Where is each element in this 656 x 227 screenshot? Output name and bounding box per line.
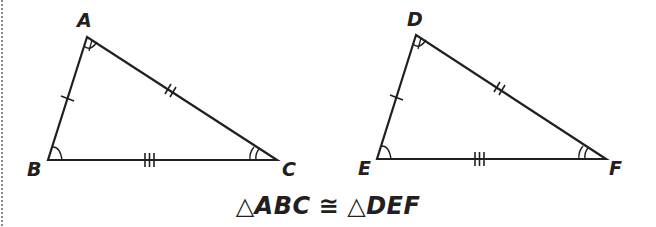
congruence-statement: △ABC≅△DEF: [0, 192, 656, 220]
angle-tick-a: [89, 40, 92, 51]
congruent-symbol: ≅: [319, 192, 340, 220]
triangle-symbol-right: △: [347, 192, 366, 220]
caption-left-triangle: ABC: [255, 192, 311, 220]
angle-arc-f-inner: [585, 148, 588, 159]
angle-arc-c-outer: [250, 147, 254, 160]
congruent-triangles-figure: A B C D E F △ABC≅△DEF: [0, 0, 656, 227]
triangle-abc-outline: [48, 37, 277, 160]
angle-arc-c-inner: [256, 149, 259, 160]
triangle-abc: [48, 37, 277, 167]
triangle-def: [377, 35, 606, 166]
triangle-symbol-left: △: [236, 192, 255, 220]
angle-tick-d: [418, 38, 421, 49]
vertex-label-b: B: [27, 158, 41, 180]
vertex-label-d: D: [407, 8, 423, 30]
vertex-label-c: C: [282, 158, 296, 180]
angle-arc-f-outer: [579, 146, 583, 159]
caption-right-triangle: DEF: [366, 192, 420, 220]
angle-arc-e: [381, 146, 391, 159]
triangle-def-outline: [377, 35, 606, 159]
vertex-label-a: A: [75, 9, 92, 31]
angle-arc-b: [52, 147, 62, 160]
vertex-label-e: E: [358, 157, 371, 179]
vertex-label-f: F: [609, 157, 622, 179]
